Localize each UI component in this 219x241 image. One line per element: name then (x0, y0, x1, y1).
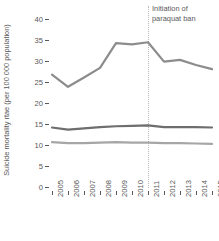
y-tick-label: 10 (35, 141, 52, 151)
x-tick-mark (52, 191, 53, 195)
y-tick-label: 25 (35, 78, 52, 88)
x-tick-mark (132, 191, 133, 195)
y-tick-label: 35 (35, 36, 52, 46)
y-tick-label: 20 (35, 99, 52, 109)
series-line-elderly-suicide-rate (52, 42, 212, 87)
x-tick-mark (180, 191, 181, 195)
series-line-overall-suicide-rate (52, 142, 212, 144)
x-tick-mark (212, 191, 213, 195)
y-tick-label: 5 (39, 162, 52, 172)
series-line-male-suicide-rate (52, 125, 212, 129)
x-tick-label: 2015 (216, 180, 219, 197)
x-tick-mark (116, 191, 117, 195)
y-tick-label: 0 (39, 183, 52, 193)
x-tick-mark (100, 191, 101, 195)
x-tick-mark (84, 191, 85, 195)
plot-area: 0510152025303540 20052006200720082009201… (52, 20, 214, 188)
y-tick-label: 15 (35, 120, 52, 130)
x-tick-mark (148, 191, 149, 195)
x-tick-mark (196, 191, 197, 195)
y-tick-label: 30 (35, 57, 52, 67)
series-lines (52, 20, 214, 188)
y-axis-title: Suicide mortality rtae (per 100 000 popu… (0, 0, 14, 200)
x-tick-mark (164, 191, 165, 195)
x-tick-mark (68, 191, 69, 195)
y-tick-label: 40 (35, 15, 52, 25)
chart-figure: Suicide mortality rtae (per 100 000 popu… (0, 0, 219, 241)
